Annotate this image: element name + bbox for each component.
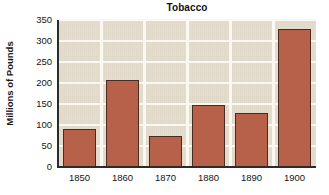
y-axis-line <box>57 20 59 168</box>
gridline-vertical <box>143 20 146 167</box>
y-tick-label: 200 <box>5 78 57 88</box>
gridline-vertical <box>229 20 232 167</box>
y-tick-label: 300 <box>5 36 57 46</box>
y-tick-label: 150 <box>5 99 57 109</box>
gridline-vertical <box>100 20 103 167</box>
y-tick-label: 250 <box>5 57 57 67</box>
y-axis-tick-labels: 050100150200250300350 <box>0 0 57 195</box>
y-tick-label: 350 <box>5 15 57 25</box>
x-tick-label: 1900 <box>270 172 320 183</box>
gridline-vertical <box>272 20 275 167</box>
plot-area <box>58 20 316 167</box>
y-tick-label: 50 <box>5 141 57 151</box>
bar-1900 <box>278 29 311 167</box>
bar-1890 <box>235 113 268 167</box>
tobacco-bar-chart: Tobacco Millions of Pounds 0501001502002… <box>0 0 329 195</box>
bar-1860 <box>106 80 139 167</box>
y-tick-label: 100 <box>5 120 57 130</box>
bar-1870 <box>149 136 182 167</box>
chart-title: Tobacco <box>58 1 316 14</box>
bar-1880 <box>192 105 225 167</box>
y-tick-label: 0 <box>5 162 57 172</box>
bar-1850 <box>63 129 96 167</box>
x-axis-line <box>57 166 316 168</box>
gridline-vertical <box>186 20 189 167</box>
